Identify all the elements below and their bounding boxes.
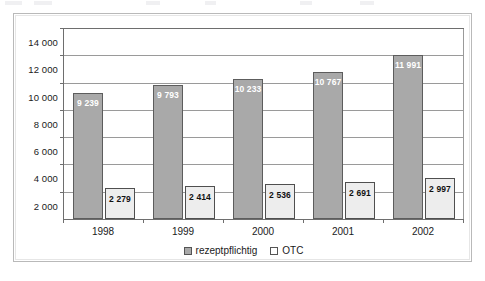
y-axis-tick-label: 8 000 [34, 118, 58, 129]
y-axis-label-group: 2 0004 0006 0008 00010 00012 00014 000 [14, 28, 58, 219]
x-axis-category-label: 2002 [412, 226, 434, 237]
chart-legend: rezeptpflichtigOTC [14, 245, 473, 256]
x-axis-category-label: 1998 [92, 226, 114, 237]
bar-rezeptpflichtig[interactable]: 11 991 [393, 55, 423, 219]
x-axis-tick [223, 219, 224, 223]
y-axis-tick-label: 12 000 [28, 64, 58, 75]
bar-value-label: 2 279 [106, 194, 134, 204]
bar-otc[interactable]: 2 997 [425, 178, 455, 219]
x-axis-tick [143, 219, 144, 223]
y-axis-tick-label: 4 000 [34, 173, 58, 184]
bar-value-label: 2 414 [186, 192, 214, 202]
plot-inner: 9 2392 2799 7932 41410 2332 53610 7672 6… [64, 28, 464, 219]
legend-item-label: rezeptpflichtig [196, 245, 258, 256]
bar-value-label: 10 233 [234, 84, 262, 94]
bar-group: 11 9912 997 [384, 28, 464, 219]
bar-group: 10 2332 536 [224, 28, 304, 219]
legend-item-label: OTC [282, 245, 303, 256]
bar-rezeptpflichtig[interactable]: 9 239 [73, 93, 103, 219]
x-axis-label-group: 19981999200020012002 [63, 219, 464, 245]
chart-frame: 2 0004 0006 0008 00010 00012 00014 000 9… [13, 13, 472, 262]
x-axis-tick [383, 219, 384, 223]
bar-otc[interactable]: 2 279 [105, 188, 135, 219]
bar-group: 9 2392 279 [64, 28, 144, 219]
bar-otc[interactable]: 2 691 [345, 182, 375, 219]
bar-value-label: 2 691 [346, 188, 374, 198]
bar-value-label: 9 793 [154, 90, 182, 100]
x-axis-tick [303, 219, 304, 223]
legend-item-rezeptpflichtig[interactable]: rezeptpflichtig [184, 245, 258, 256]
bar-value-label: 2 997 [426, 184, 454, 194]
y-axis-tick-label: 10 000 [28, 91, 58, 102]
bar-group: 10 7672 691 [304, 28, 384, 219]
x-axis-tick [63, 219, 64, 223]
x-axis-category-label: 2000 [252, 226, 274, 237]
gray-square-icon [184, 247, 192, 255]
y-axis-tick-label: 2 000 [34, 200, 58, 211]
bar-otc[interactable]: 2 536 [265, 184, 295, 219]
bar-rezeptpflichtig[interactable]: 9 793 [153, 85, 183, 219]
bar-rezeptpflichtig[interactable]: 10 233 [233, 79, 263, 219]
bar-otc[interactable]: 2 414 [185, 186, 215, 219]
white-square-icon [270, 247, 278, 255]
y-axis-tick-label: 6 000 [34, 146, 58, 157]
x-axis-tick [463, 219, 464, 223]
y-axis-tick-label: 14 000 [28, 37, 58, 48]
bar-value-label: 11 991 [394, 60, 422, 70]
legend-item-otc[interactable]: OTC [270, 245, 303, 256]
bar-rezeptpflichtig[interactable]: 10 767 [313, 72, 343, 219]
bar-value-label: 2 536 [266, 190, 294, 200]
x-axis-category-label: 2001 [332, 226, 354, 237]
bar-group: 9 7932 414 [144, 28, 224, 219]
scan-artifact-strip [0, 0, 485, 7]
plot-area: 9 2392 2799 7932 41410 2332 53610 7672 6… [63, 28, 464, 220]
bar-value-label: 10 767 [314, 77, 342, 87]
x-axis-category-label: 1999 [172, 226, 194, 237]
bar-value-label: 9 239 [74, 98, 102, 108]
